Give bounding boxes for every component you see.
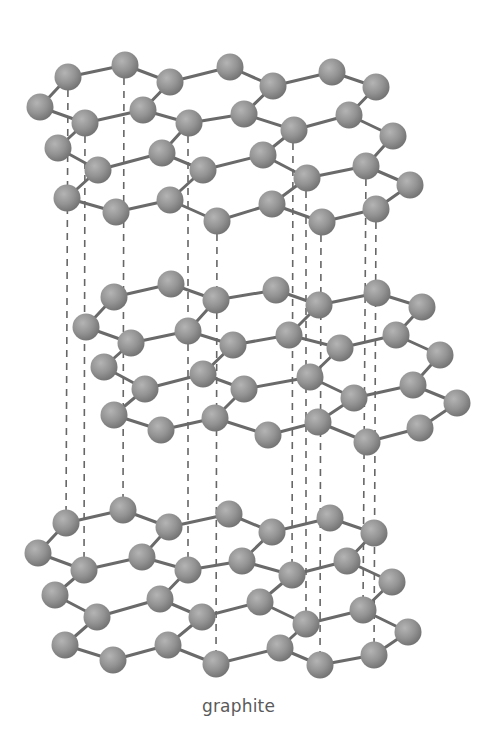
carbon-atom: [110, 497, 137, 524]
carbon-atom: [72, 110, 99, 137]
carbon-atom: [54, 185, 81, 212]
bonds: [38, 510, 408, 665]
carbon-atom: [157, 69, 184, 96]
carbon-atom: [279, 562, 306, 589]
carbon-atom: [53, 510, 80, 537]
carbon-atom: [112, 52, 139, 79]
carbon-atom: [157, 187, 184, 214]
carbon-atom: [409, 294, 436, 321]
carbon-atom: [55, 64, 82, 91]
carbon-atom: [259, 191, 286, 218]
atoms: [73, 271, 471, 456]
carbon-atom: [255, 422, 282, 449]
bottom-layer: [25, 497, 422, 679]
graphite-structure-diagram: [0, 0, 477, 751]
carbon-atom: [190, 157, 217, 184]
carbon-atom: [231, 101, 258, 128]
carbon-atom: [260, 73, 287, 100]
carbon-atom: [190, 361, 217, 388]
carbon-atom: [155, 632, 182, 659]
carbon-atom: [309, 209, 336, 236]
carbon-atom: [42, 582, 69, 609]
carbon-atom: [100, 647, 127, 674]
carbon-atom: [149, 140, 176, 167]
carbon-atom: [250, 142, 277, 169]
middle-layer: [73, 271, 471, 456]
carbon-atom: [91, 354, 118, 381]
carbon-atom: [341, 385, 368, 412]
carbon-atom: [132, 376, 159, 403]
carbon-atom: [363, 74, 390, 101]
carbon-atom: [148, 417, 175, 444]
carbon-atom: [259, 519, 286, 546]
carbon-atom: [27, 94, 54, 121]
carbon-atom: [353, 153, 380, 180]
carbon-layers: [25, 52, 471, 679]
carbon-atom: [427, 342, 454, 369]
carbon-atom: [379, 569, 406, 596]
carbon-atom: [147, 586, 174, 613]
carbon-atom: [281, 117, 308, 144]
carbon-atom: [45, 135, 72, 162]
carbon-atom: [176, 110, 203, 137]
carbon-atom: [158, 271, 185, 298]
bonds: [86, 284, 457, 442]
top-layer: [27, 52, 424, 236]
carbon-atom: [204, 208, 231, 235]
carbon-atom: [380, 123, 407, 150]
carbon-atom: [247, 589, 274, 616]
carbon-atom: [220, 332, 247, 359]
carbon-atom: [297, 364, 324, 391]
carbon-atom: [361, 520, 388, 547]
carbon-atom: [267, 635, 294, 662]
carbon-atom: [103, 199, 130, 226]
carbon-atom: [350, 597, 377, 624]
carbon-atom: [175, 318, 202, 345]
bonds: [40, 65, 410, 222]
carbon-atom: [129, 544, 156, 571]
carbon-atom: [202, 405, 229, 432]
carbon-atom: [383, 322, 410, 349]
carbon-atom: [354, 429, 381, 456]
carbon-atom: [130, 97, 157, 124]
carbon-atom: [444, 390, 471, 417]
carbon-atom: [175, 557, 202, 584]
carbon-atom: [71, 557, 98, 584]
carbon-atom: [363, 196, 390, 223]
carbon-atom: [118, 330, 145, 357]
carbon-atom: [294, 165, 321, 192]
carbon-atom: [327, 335, 354, 362]
carbon-atom: [364, 280, 391, 307]
carbon-atom: [189, 604, 216, 631]
carbon-atom: [397, 172, 424, 199]
carbon-atom: [25, 540, 52, 567]
carbon-atom: [229, 548, 256, 575]
carbon-atom: [395, 619, 422, 646]
carbon-atom: [231, 376, 258, 403]
carbon-atom: [306, 292, 333, 319]
carbon-atom: [73, 314, 100, 341]
interlayer-dashed-line: [84, 123, 85, 570]
carbon-atom: [85, 157, 112, 184]
carbon-atom: [101, 402, 128, 429]
carbon-atom: [156, 514, 183, 541]
carbon-atom: [361, 642, 388, 669]
carbon-atom: [307, 652, 334, 679]
carbon-atom: [52, 632, 79, 659]
diagram-caption: graphite: [0, 696, 477, 716]
atoms: [27, 52, 424, 236]
carbon-atom: [217, 54, 244, 81]
carbon-atom: [276, 322, 303, 349]
carbon-atom: [317, 505, 344, 532]
carbon-atom: [203, 287, 230, 314]
carbon-atom: [203, 651, 230, 678]
carbon-atom: [216, 501, 243, 528]
carbon-atom: [407, 415, 434, 442]
carbon-atom: [293, 611, 320, 638]
carbon-atom: [336, 102, 363, 129]
interlayer-dashed-line: [292, 130, 293, 575]
carbon-atom: [305, 409, 332, 436]
carbon-atom: [101, 284, 128, 311]
interlayer-dashed-line: [320, 222, 321, 665]
carbon-atom: [400, 372, 427, 399]
